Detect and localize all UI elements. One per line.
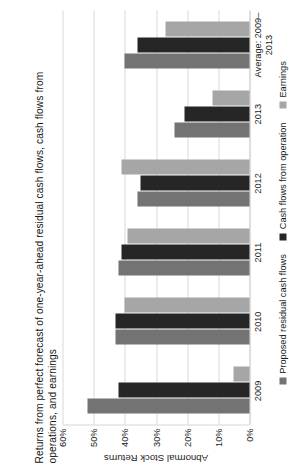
y-axis-title: Abnormal Stock Returns: [63, 451, 250, 465]
rotated-chart-frame: Returns from perfect forecast of one-yea…: [23, 0, 276, 475]
plot-wrapper: Abnormal Stock Returns 60%50%40%30%20%10…: [63, 10, 250, 465]
bar[interactable]: [234, 366, 250, 381]
bar[interactable]: [115, 313, 249, 328]
bar-group: [63, 10, 250, 79]
y-axis-tick: 10%: [213, 428, 223, 446]
bar[interactable]: [165, 21, 249, 36]
axis-baseline: [250, 10, 251, 424]
bar[interactable]: [184, 106, 249, 121]
y-axis-title-label: Abnormal Stock Returns: [104, 452, 208, 463]
x-axis-category-label: 2011: [250, 217, 274, 286]
bar[interactable]: [125, 297, 250, 312]
x-axis-category-labels: 20092010201120122013Average: 2009– 2013: [250, 10, 274, 425]
bar[interactable]: [119, 382, 250, 397]
bar[interactable]: [125, 53, 250, 68]
bar-group: [63, 286, 250, 355]
y-axis-tick: 20%: [182, 428, 192, 446]
chart-legend: Proposed residual cash flowsCash flows f…: [274, 10, 276, 435]
plot-area: [63, 10, 250, 425]
bar[interactable]: [140, 175, 249, 190]
x-axis-category-label: 2010: [250, 287, 274, 356]
y-axis-tick: 40%: [120, 428, 130, 446]
bar[interactable]: [175, 122, 250, 137]
x-axis-category-label: 2013: [250, 79, 274, 148]
bar[interactable]: [212, 90, 249, 105]
x-axis-category-label: 2009: [250, 356, 274, 425]
chart-container: Returns from perfect forecast of one-yea…: [23, 0, 276, 475]
y-axis-tick-labels: 60%50%40%30%20%10%0%: [63, 425, 250, 451]
bar[interactable]: [115, 329, 249, 344]
y-axis-tick: 60%: [58, 428, 68, 446]
bar[interactable]: [119, 260, 250, 275]
bar[interactable]: [87, 398, 249, 413]
bar[interactable]: [122, 244, 250, 259]
bar-group: [63, 217, 250, 286]
bar[interactable]: [128, 228, 250, 243]
bar-group: [63, 79, 250, 148]
y-axis-tick: 50%: [89, 428, 99, 446]
bar-groups: [63, 10, 250, 424]
x-axis-category-label: 2012: [250, 148, 274, 217]
bar-group: [63, 148, 250, 217]
bar-group: [63, 355, 250, 424]
y-axis-tick: 30%: [151, 428, 161, 446]
y-axis-tick: 0%: [245, 428, 255, 441]
bar[interactable]: [137, 191, 249, 206]
x-axis-category-label: Average: 2009– 2013: [250, 10, 274, 79]
bar[interactable]: [122, 159, 250, 174]
bar[interactable]: [137, 37, 249, 52]
chart-title: Returns from perfect forecast of one-yea…: [33, 33, 59, 463]
